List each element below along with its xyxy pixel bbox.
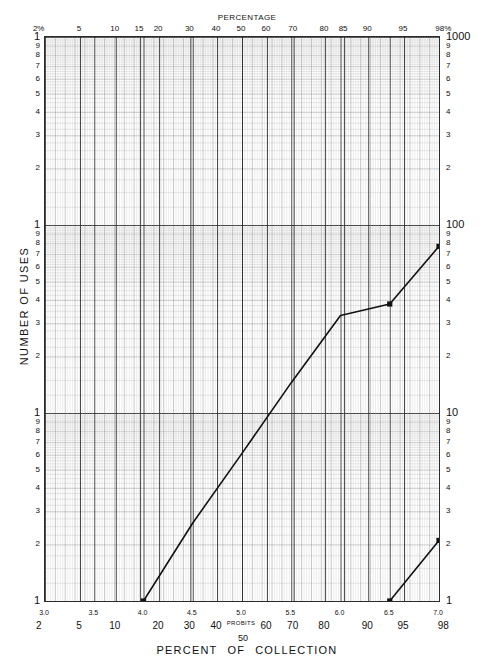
top-tick-15: 15	[134, 24, 143, 33]
left-tick-60: 6	[18, 261, 40, 270]
right-tick-3: 3	[446, 506, 450, 515]
probit-tick-5.0: 5.0	[236, 609, 246, 616]
left-tick-8: 8	[18, 426, 40, 435]
left-tick-7: 7	[18, 437, 40, 446]
right-tick-90: 9	[446, 228, 450, 237]
plot-area	[44, 36, 440, 602]
left-tick-300: 3	[18, 130, 40, 139]
secondary-short-line	[390, 540, 439, 601]
right-tick-700: 7	[446, 61, 450, 70]
right-tick-70: 7	[446, 249, 450, 258]
right-tick-1: 1	[446, 594, 452, 606]
right-tick-500: 5	[446, 88, 450, 97]
left-tick-700: 7	[18, 61, 40, 70]
data-point-marker	[436, 244, 439, 249]
main-distribution-line	[144, 246, 440, 601]
right-tick-2: 2	[446, 539, 450, 548]
top-tick-30: 30	[185, 24, 194, 33]
top-tick-60: 60	[261, 24, 270, 33]
title-word-0: PERCENT	[157, 644, 218, 656]
data-series-layer	[45, 37, 439, 601]
top-tick-10: 10	[110, 24, 119, 33]
right-tick-40: 4	[446, 294, 450, 303]
right-tick-7: 7	[446, 437, 450, 446]
top-tick-85: 85	[339, 24, 348, 33]
right-tick-4: 4	[446, 482, 450, 491]
right-tick-8: 8	[446, 426, 450, 435]
right-tick-900: 9	[446, 40, 450, 49]
right-axis-ticks: 1000987654321009876543210987654321	[446, 0, 494, 668]
probit-log-chart: PERCENTAGE NUMBER OF USES 19876543219876…	[0, 0, 494, 668]
pct-tick-40: 40	[210, 620, 221, 631]
left-tick-1: 1	[18, 594, 40, 606]
pct-tick-probits: PROBITS	[227, 620, 255, 626]
pct-tick-10: 10	[109, 620, 120, 631]
probit-tick-7.0: 7.0	[433, 609, 443, 616]
probit-tick-5.5: 5.5	[285, 609, 295, 616]
probit-tick-3.0: 3.0	[39, 609, 49, 616]
pct-tick-5: 5	[76, 620, 82, 631]
top-axis-title: PERCENTAGE	[0, 13, 494, 22]
top-tick-40: 40	[212, 24, 221, 33]
data-point-marker	[387, 598, 392, 601]
top-tick-50: 50	[237, 24, 246, 33]
left-tick-400: 4	[18, 106, 40, 115]
left-axis-ticks: 1987654321987654321987654321	[14, 0, 40, 668]
probit-tick-4.5: 4.5	[187, 609, 197, 616]
probit-tick-4.0: 4.0	[138, 609, 148, 616]
top-tick-2pct: 2%	[33, 24, 45, 33]
left-tick-40: 4	[18, 294, 40, 303]
pct-tick-20: 20	[153, 620, 164, 631]
left-tick-900: 9	[18, 40, 40, 49]
pct-tick-2: 2	[36, 620, 42, 631]
right-tick-200: 2	[446, 163, 450, 172]
data-point-marker	[436, 538, 439, 543]
right-tick-6: 6	[446, 449, 450, 458]
title-word-2: COLLECTION	[255, 644, 337, 656]
right-tick-400: 4	[446, 106, 450, 115]
right-tick-50: 5	[446, 276, 450, 285]
left-tick-70: 7	[18, 249, 40, 258]
title-word-1: OF	[227, 644, 245, 656]
left-tick-2: 2	[18, 539, 40, 548]
left-tick-5: 5	[18, 464, 40, 473]
data-point-marker	[141, 598, 146, 601]
top-tick-80: 80	[319, 24, 328, 33]
pct-tick-90: 90	[362, 620, 373, 631]
right-tick-30: 3	[446, 318, 450, 327]
left-tick-800: 8	[18, 50, 40, 59]
right-tick-300: 3	[446, 130, 450, 139]
chart-title: PERCENTOFCOLLECTION	[0, 644, 494, 656]
pct-tick-95: 95	[397, 620, 408, 631]
probit-tick-3.5: 3.5	[88, 609, 98, 616]
right-tick-600: 6	[446, 73, 450, 82]
top-tick-5: 5	[77, 24, 81, 33]
left-tick-200: 2	[18, 163, 40, 172]
top-tick-90: 90	[363, 24, 372, 33]
pct-tick-30: 30	[184, 620, 195, 631]
pct-tick-70: 70	[287, 620, 298, 631]
top-tick-70: 70	[288, 24, 297, 33]
left-tick-500: 5	[18, 88, 40, 97]
probit-tick-6.0: 6.0	[335, 609, 345, 616]
right-tick-5: 5	[446, 464, 450, 473]
left-tick-20: 2	[18, 351, 40, 360]
top-tick-95: 95	[399, 24, 408, 33]
top-tick-20: 20	[154, 24, 163, 33]
left-tick-3: 3	[18, 506, 40, 515]
left-tick-80: 8	[18, 238, 40, 247]
left-tick-50: 5	[18, 276, 40, 285]
pct-tick-98: 98	[438, 620, 449, 631]
left-tick-30: 3	[18, 318, 40, 327]
left-tick-4: 4	[18, 482, 40, 491]
left-tick-90: 9	[18, 228, 40, 237]
right-tick-800: 8	[446, 50, 450, 59]
left-tick-600: 6	[18, 73, 40, 82]
right-tick-20: 2	[446, 351, 450, 360]
top-tick-98pct: 98%	[435, 24, 451, 33]
right-tick-9: 9	[446, 416, 450, 425]
right-tick-80: 8	[446, 238, 450, 247]
right-tick-60: 6	[446, 261, 450, 270]
left-tick-9: 9	[18, 416, 40, 425]
left-tick-6: 6	[18, 449, 40, 458]
